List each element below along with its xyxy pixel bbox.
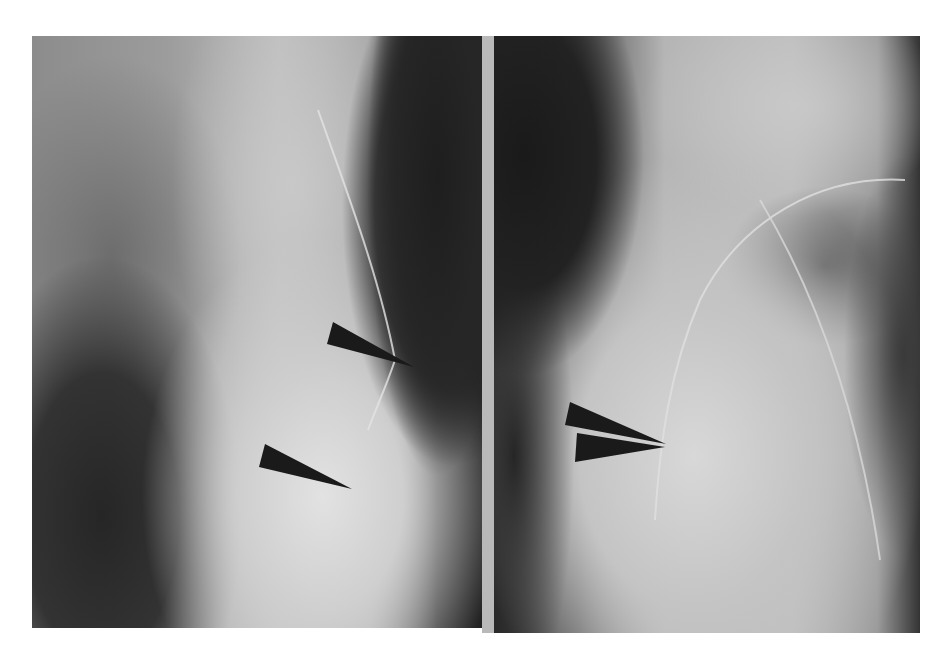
radiograph-figure xyxy=(0,0,947,656)
radiograph-panel-right xyxy=(494,36,920,633)
panel-divider xyxy=(482,36,494,633)
radiograph-panel-left xyxy=(32,36,482,628)
